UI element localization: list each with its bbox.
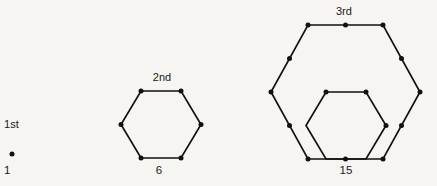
stage-3rd-group <box>269 23 423 162</box>
vertex-dot <box>179 89 184 94</box>
hexagon-outline <box>121 91 201 158</box>
vertex-dot <box>343 157 348 162</box>
vertex-dot <box>199 122 204 127</box>
stage-2nd-ordinal-label: 2nd <box>138 71 186 83</box>
vertex-dot <box>399 123 404 128</box>
vertex-dot <box>10 152 15 157</box>
vertex-dot <box>287 56 292 61</box>
vertex-dot <box>139 89 144 94</box>
stage-2nd-count-label: 6 <box>138 164 180 176</box>
stage-1st-group <box>10 152 15 157</box>
vertex-dot <box>324 90 329 95</box>
vertex-dot <box>381 23 386 28</box>
vertex-dot <box>399 56 404 61</box>
vertex-dot <box>343 23 348 28</box>
vertex-dot <box>269 90 274 95</box>
vertex-dot <box>119 122 124 127</box>
vertex-dot <box>384 123 389 128</box>
vertex-dot <box>139 156 144 161</box>
stage-3rd-count-label: 15 <box>326 164 366 176</box>
stage-2nd-dots <box>119 89 204 161</box>
stage-3rd-shapes <box>271 25 420 159</box>
stage-1st-count-label: 1 <box>4 164 32 176</box>
stage-2nd-group <box>119 89 204 161</box>
vertex-dot <box>179 156 184 161</box>
vertex-dot <box>364 90 369 95</box>
vertex-dot <box>306 23 311 28</box>
vertex-dot <box>381 157 386 162</box>
stage-2nd-shapes <box>121 91 201 158</box>
inner-hexagon-outline <box>306 92 386 159</box>
stage-1st-ordinal-label: 1st <box>4 118 40 130</box>
stage-3rd-ordinal-label: 3rd <box>320 5 368 17</box>
vertex-dot <box>287 123 292 128</box>
vertex-dot <box>418 90 423 95</box>
stage-1st-dots <box>10 152 15 157</box>
vertex-dot <box>306 157 311 162</box>
hexagonal-sequence-diagram <box>0 0 437 186</box>
